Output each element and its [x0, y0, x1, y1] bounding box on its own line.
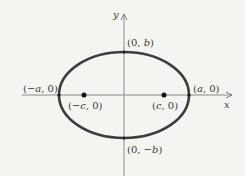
vertex-bottom-point: [122, 136, 125, 139]
y-axis-label: y: [112, 9, 119, 20]
ellipse-diagram: y x (0, b) (0, −b) (−a, 0) (a, 0) (−c, 0…: [0, 0, 245, 176]
top-vertex-label: (0, b): [127, 37, 154, 48]
x-axis-label: x: [224, 99, 230, 110]
vertex-left-point: [57, 93, 60, 96]
bottom-vertex-label: (0, −b): [127, 144, 162, 155]
focus-right-point: [162, 93, 167, 98]
vertex-top-point: [122, 50, 125, 53]
left-focus-label: (−c, 0): [68, 100, 103, 111]
vertex-right-point: [187, 93, 190, 96]
focus-left-point: [82, 93, 87, 98]
right-focus-label: (c, 0): [152, 100, 178, 111]
left-vertex-label: (−a, 0): [23, 83, 58, 94]
right-vertex-label: (a, 0): [193, 83, 220, 94]
